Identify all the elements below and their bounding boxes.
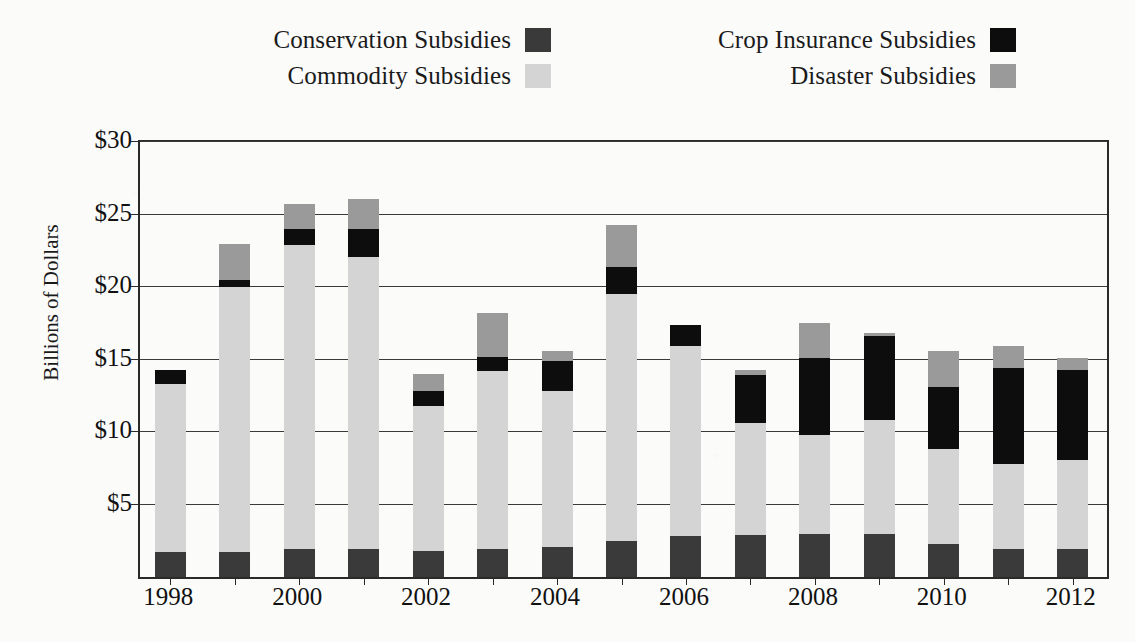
- bar-segment[interactable]: [219, 280, 250, 287]
- bar-segment[interactable]: [1057, 358, 1088, 370]
- bar-segment[interactable]: [606, 541, 637, 577]
- x-tick-label: 2002: [381, 583, 471, 611]
- bar-segment[interactable]: [799, 435, 830, 534]
- bar-2004[interactable]: [542, 142, 573, 577]
- legend-label-crop-insurance: Crop Insurance Subsidies: [718, 27, 976, 53]
- bar-segment[interactable]: [348, 199, 379, 229]
- bar-segment[interactable]: [477, 357, 508, 372]
- y-tick-label: $20: [48, 272, 132, 297]
- bar-2006[interactable]: [670, 142, 701, 577]
- bar-segment[interactable]: [348, 229, 379, 257]
- bar-segment[interactable]: [670, 346, 701, 536]
- bar-2003[interactable]: [477, 142, 508, 577]
- bar-segment[interactable]: [477, 371, 508, 549]
- bar-segment[interactable]: [864, 534, 895, 578]
- bar-segment[interactable]: [928, 544, 959, 577]
- bar-segment[interactable]: [284, 549, 315, 577]
- x-tick-label: 2000: [252, 583, 342, 611]
- bar-segment[interactable]: [606, 267, 637, 295]
- bar-segment[interactable]: [670, 536, 701, 577]
- bar-2009[interactable]: [864, 142, 895, 577]
- bar-segment[interactable]: [219, 244, 250, 280]
- bar-2008[interactable]: [799, 142, 830, 577]
- bar-segment[interactable]: [864, 420, 895, 533]
- legend-item-commodity[interactable]: Commodity Subsidies: [230, 58, 625, 94]
- x-tick-label: 2010: [897, 583, 987, 611]
- y-tick-label: $10: [48, 417, 132, 442]
- bar-segment[interactable]: [348, 257, 379, 550]
- bar-1999[interactable]: [219, 142, 250, 577]
- bar-segment[interactable]: [993, 368, 1024, 464]
- bar-segment[interactable]: [735, 375, 766, 423]
- bar-segment[interactable]: [284, 245, 315, 550]
- x-tick-label: 1998: [123, 583, 213, 611]
- bar-segment[interactable]: [928, 449, 959, 543]
- bar-segment[interactable]: [219, 552, 250, 577]
- y-tick-label: $25: [48, 200, 132, 225]
- legend-swatch-disaster: [990, 64, 1016, 88]
- bar-2005[interactable]: [606, 142, 637, 577]
- bar-segment[interactable]: [864, 336, 895, 420]
- bar-segment[interactable]: [1057, 460, 1088, 550]
- bar-segment[interactable]: [348, 549, 379, 577]
- legend-row-1: Conservation Subsidies Crop Insurance Su…: [230, 22, 1020, 58]
- y-tickmark: [131, 504, 140, 505]
- bar-2000[interactable]: [284, 142, 315, 577]
- legend-swatch-crop-insurance: [990, 28, 1016, 52]
- y-tickmark: [131, 359, 140, 360]
- legend-item-crop-insurance[interactable]: Crop Insurance Subsidies: [625, 22, 1020, 58]
- bar-segment[interactable]: [928, 351, 959, 387]
- bar-2011[interactable]: [993, 142, 1024, 577]
- bar-segment[interactable]: [799, 358, 830, 435]
- bar-segment[interactable]: [284, 229, 315, 245]
- chart-figure: Conservation Subsidies Crop Insurance Su…: [0, 0, 1135, 642]
- bar-segment[interactable]: [219, 287, 250, 552]
- x-tick-label: 2012: [1026, 583, 1116, 611]
- bar-segment[interactable]: [735, 423, 766, 535]
- y-tickmark: [131, 286, 140, 287]
- bar-segment[interactable]: [155, 384, 186, 552]
- bar-segment[interactable]: [413, 406, 444, 551]
- bar-segment[interactable]: [606, 225, 637, 267]
- bar-segment[interactable]: [670, 325, 701, 347]
- bar-segment[interactable]: [799, 323, 830, 358]
- bar-segment[interactable]: [928, 387, 959, 449]
- x-tick-label: 2008: [768, 583, 858, 611]
- bar-2012[interactable]: [1057, 142, 1088, 577]
- bar-segment[interactable]: [606, 294, 637, 541]
- bar-2007[interactable]: [735, 142, 766, 577]
- bar-segment[interactable]: [542, 361, 573, 391]
- bar-segment[interactable]: [413, 391, 444, 406]
- bar-segment[interactable]: [284, 204, 315, 229]
- bar-segment[interactable]: [735, 370, 766, 376]
- bar-segment[interactable]: [542, 351, 573, 361]
- bar-segment[interactable]: [864, 333, 895, 336]
- bar-segment[interactable]: [1057, 549, 1088, 577]
- bar-segment[interactable]: [993, 464, 1024, 550]
- chart-legend: Conservation Subsidies Crop Insurance Su…: [230, 22, 1020, 94]
- bar-segment[interactable]: [155, 370, 186, 385]
- bar-segment[interactable]: [413, 374, 444, 391]
- bar-2010[interactable]: [928, 142, 959, 577]
- bar-segment[interactable]: [542, 391, 573, 546]
- bar-segment[interactable]: [155, 552, 186, 577]
- legend-label-commodity: Commodity Subsidies: [288, 63, 511, 89]
- bar-segment[interactable]: [799, 534, 830, 578]
- legend-item-disaster[interactable]: Disaster Subsidies: [625, 58, 1020, 94]
- bar-segment[interactable]: [413, 551, 444, 577]
- legend-row-2: Commodity Subsidies Disaster Subsidies: [230, 58, 1020, 94]
- bar-segment[interactable]: [542, 547, 573, 577]
- y-tick-label: $15: [48, 345, 132, 370]
- bar-segment[interactable]: [1057, 370, 1088, 460]
- bar-1998[interactable]: [155, 142, 186, 577]
- bar-segment[interactable]: [477, 549, 508, 577]
- bar-segment[interactable]: [735, 535, 766, 577]
- bar-segment[interactable]: [993, 549, 1024, 577]
- y-tick-label: $30: [48, 127, 132, 152]
- legend-item-conservation[interactable]: Conservation Subsidies: [230, 22, 625, 58]
- bar-segment[interactable]: [993, 346, 1024, 368]
- y-axis-tick-labels: $5$10$15$20$25$30: [40, 0, 132, 642]
- bar-2001[interactable]: [348, 142, 379, 577]
- bar-segment[interactable]: [477, 313, 508, 357]
- bar-2002[interactable]: [413, 142, 444, 577]
